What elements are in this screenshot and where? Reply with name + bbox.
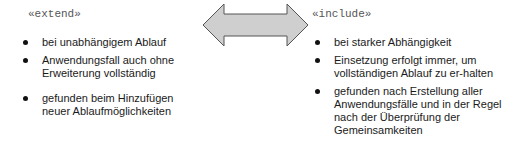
bullet-icon bbox=[315, 89, 320, 94]
extend-list: bei unabhängigem Ablauf Anwendungsfall a… bbox=[20, 36, 182, 123]
include-list: bei starker Abhängigkeit Einsetzung erfo… bbox=[312, 36, 509, 142]
list-item: bei unabhängigem Ablauf bbox=[20, 36, 182, 49]
bullet-icon bbox=[23, 96, 28, 101]
bullet-icon bbox=[315, 40, 320, 45]
list-item: Einsetzung erfolgt immer, um vollständig… bbox=[312, 54, 509, 80]
list-item: gefunden beim Hinzufügen neuer Ablaufmög… bbox=[20, 92, 182, 118]
bullet-icon bbox=[23, 58, 28, 63]
list-item: bei starker Abhängigkeit bbox=[312, 36, 509, 49]
bullet-icon bbox=[23, 40, 28, 45]
list-item: gefunden nach Erstellung aller Anwendung… bbox=[312, 85, 509, 137]
bullet-icon bbox=[315, 58, 320, 63]
double-arrow-icon bbox=[202, 3, 309, 47]
extend-stereotype: «extend» bbox=[28, 8, 81, 20]
list-item: Anwendungsfall auch ohne Erweiterung vol… bbox=[20, 54, 182, 80]
include-stereotype: «include» bbox=[312, 8, 371, 20]
